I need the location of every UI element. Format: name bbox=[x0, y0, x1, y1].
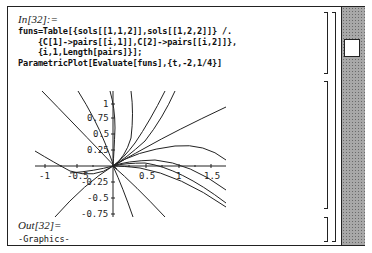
scrollbar-thumb[interactable] bbox=[344, 39, 360, 57]
y-tick-label: 0.5 bbox=[93, 129, 109, 139]
graphics-cell-bracket[interactable] bbox=[324, 81, 328, 209]
x-tick-label: 0.5 bbox=[139, 171, 155, 181]
y-tick-label: -0.5 bbox=[87, 193, 109, 203]
x-tick-label: -1 bbox=[39, 171, 50, 181]
notebook-window: In[32]:= funs=Table[{sols[[1,1,2]],sols[… bbox=[7, 6, 365, 246]
y-tick-label: 0.75 bbox=[87, 113, 109, 123]
y-tick-label: -0.25 bbox=[81, 177, 108, 187]
group-cell-bracket[interactable] bbox=[332, 12, 336, 242]
solution-curves bbox=[35, 91, 226, 217]
output-cell-bracket[interactable] bbox=[324, 217, 328, 242]
y-tick-label: 0.25 bbox=[87, 145, 109, 155]
y-tick-label: -0.75 bbox=[81, 209, 108, 217]
input-cell-bracket[interactable] bbox=[324, 12, 328, 74]
output-value: -Graphics- bbox=[18, 234, 70, 244]
y-tick-label: 1 bbox=[103, 99, 108, 109]
notebook-content: In[32]:= funs=Table[{sols[[1,1,2]],sols[… bbox=[8, 7, 338, 245]
x-tick-label: 1 bbox=[176, 171, 181, 181]
parametric-plot: -1 -0.5 0.5 1 1.5 1 0.75 0.5 0.25 -0.25 … bbox=[8, 7, 338, 217]
x-tick-label: 1.5 bbox=[204, 171, 220, 181]
output-label: Out[32]= bbox=[18, 219, 61, 231]
